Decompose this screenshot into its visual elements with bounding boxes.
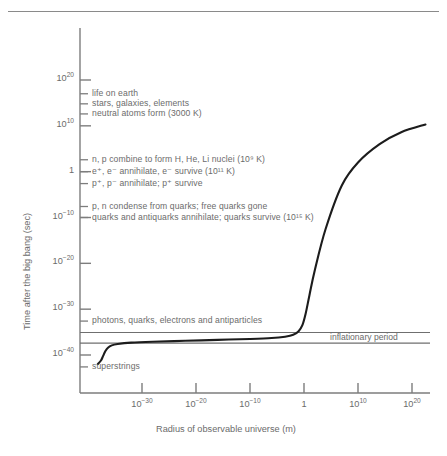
event-annotation-photons-quarks-electrons: photons, quarks, electrons and antiparti… <box>92 315 262 325</box>
y-tick-label: 1 <box>69 165 74 175</box>
tick-marks <box>80 80 412 393</box>
x-axis-title: Radius of observable universe (m) <box>156 424 296 434</box>
event-annotation-proton-annihilation: p⁺, p⁻ annihilate; p⁺ survive <box>92 178 203 188</box>
x-tick-label: 10−20 <box>185 399 206 409</box>
event-annotation-neutral-atoms-form: neutral atoms form (3000 K) <box>92 108 202 118</box>
event-annotation-stars-galaxies-elements: stars, galaxies, elements <box>92 98 189 108</box>
x-tick-label: 10−10 <box>239 399 260 409</box>
event-annotation-superstrings: superstrings <box>92 361 140 371</box>
inflationary-period-label: inflationary period <box>330 332 398 342</box>
y-tick-label: 10−10 <box>53 211 74 221</box>
y-tick-label: 1010 <box>56 119 74 129</box>
y-tick-label: 10−30 <box>53 302 74 312</box>
y-tick-label: 10−20 <box>53 256 74 266</box>
x-tick-label: 1010 <box>349 399 367 409</box>
plot-canvas <box>0 0 447 456</box>
event-annotation-quark-condensation: p, n condense from quarks; free quarks g… <box>92 201 267 211</box>
y-axis-title: Time after the big bang (sec) <box>22 213 32 330</box>
event-annotation-electron-annihilation: e⁺, e⁻ annihilate, e⁻ survive (10¹¹ K) <box>92 166 235 176</box>
x-tick-label: 1020 <box>403 399 421 409</box>
x-tick-label: 10−30 <box>131 399 152 409</box>
event-annotation-nuclei-form: n, p combine to form H, He, Li nuclei (1… <box>92 154 265 164</box>
y-tick-label: 10−40 <box>53 348 74 358</box>
x-tick-label: 1 <box>301 399 306 409</box>
event-annotation-life-on-earth: life on earth <box>92 88 138 98</box>
y-tick-label: 1020 <box>56 73 74 83</box>
cosmic-history-figure: 10201010110−1010−2010−3010−4010−3010−201… <box>0 0 447 456</box>
event-annotation-quark-annihilation: quarks and antiquarks annihilate; quarks… <box>92 212 314 222</box>
